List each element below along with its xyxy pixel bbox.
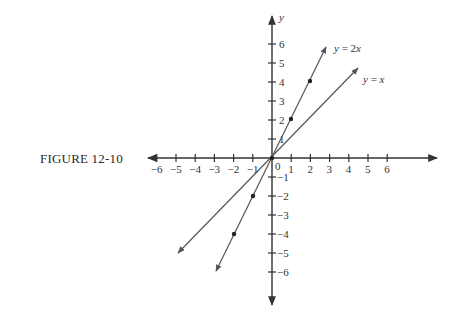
line-y-equals-x xyxy=(178,68,358,253)
y-tick-label: −5 xyxy=(277,247,289,259)
origin-label: 0 xyxy=(275,160,281,172)
x-tick-label: 6 xyxy=(384,163,390,175)
x-tick-label: −3 xyxy=(208,163,220,175)
x-tick-label: −1 xyxy=(247,163,259,175)
x-tick-label: −5 xyxy=(170,163,182,175)
x-tick-label: −4 xyxy=(189,163,201,175)
label-y-equals-2x: y = 2x xyxy=(333,42,361,54)
y-tick-label: −2 xyxy=(277,190,289,202)
y-tick-label: 4 xyxy=(279,76,285,88)
coordinate-plane: −6−5−4−3−2−1123456123456−1−2−3−4−5−6 y 0… xyxy=(0,0,465,323)
y-axis-label: y xyxy=(278,11,284,23)
y-tick-label: 2 xyxy=(279,114,285,126)
point-neg2-neg4 xyxy=(232,232,236,236)
x-tick-label: 1 xyxy=(288,163,294,175)
point-1-2 xyxy=(289,117,293,121)
y-tick-label: −4 xyxy=(277,228,289,240)
x-tick-label: 3 xyxy=(327,163,333,175)
y-tick-label: −6 xyxy=(277,266,289,278)
x-tick-label: 4 xyxy=(346,163,352,175)
label-y-equals-x: y = x xyxy=(362,73,385,85)
y-tick-label: −3 xyxy=(277,209,289,221)
x-tick-label: −2 xyxy=(228,163,240,175)
y-tick-label: 5 xyxy=(279,57,285,69)
y-tick-label: −1 xyxy=(277,171,289,183)
point-2-4 xyxy=(308,79,312,83)
origin-point xyxy=(270,156,274,160)
y-tick-label: 3 xyxy=(279,95,285,107)
point-neg1-neg2 xyxy=(251,194,255,198)
x-tick-label: 5 xyxy=(365,163,371,175)
y-tick-label: 6 xyxy=(279,38,285,50)
x-tick-label: 2 xyxy=(307,163,313,175)
x-tick-label: −6 xyxy=(151,163,163,175)
y-tick-label: 1 xyxy=(279,133,285,145)
